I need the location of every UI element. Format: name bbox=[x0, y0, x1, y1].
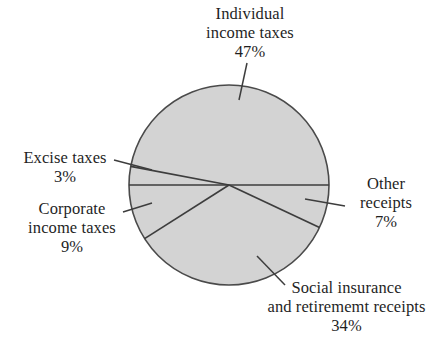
slice-percent-value: 34% bbox=[254, 316, 439, 335]
slice-percent-value: 7% bbox=[336, 212, 436, 231]
slice-label-line-1: Other bbox=[336, 174, 436, 193]
slice-label-other-receipts: Other receipts 7% bbox=[336, 174, 436, 231]
slice-label-line-1: Social insurance bbox=[254, 278, 439, 297]
slice-label-line-1: Individual bbox=[172, 4, 328, 23]
slice-label-line-2: income taxes bbox=[0, 218, 144, 237]
slice-label-line-1: Corporate bbox=[0, 199, 144, 218]
slice-percent-value: 9% bbox=[0, 237, 144, 256]
slice-label-social-insurance-retirement-receipts: Social insurance and retirememt receipts… bbox=[254, 278, 439, 335]
slice-label-line-2: income taxes bbox=[172, 23, 328, 42]
slice-label-excise-taxes: Excise taxes 3% bbox=[2, 148, 128, 186]
slice-label-line-2: receipts bbox=[336, 193, 436, 212]
slice-label-corporate-income-taxes: Corporate income taxes 9% bbox=[0, 199, 144, 256]
slice-percent-value: 3% bbox=[2, 167, 128, 186]
slice-label-individual-income-taxes: Individual income taxes 47% bbox=[172, 4, 328, 61]
slice-percent-value: 47% bbox=[172, 42, 328, 61]
slice-label-line-2: and retirememt receipts bbox=[254, 297, 439, 316]
slice-label-line-1: Excise taxes bbox=[2, 148, 128, 167]
pie-chart-figure: Individual income taxes 47% Excise taxes… bbox=[0, 0, 441, 348]
